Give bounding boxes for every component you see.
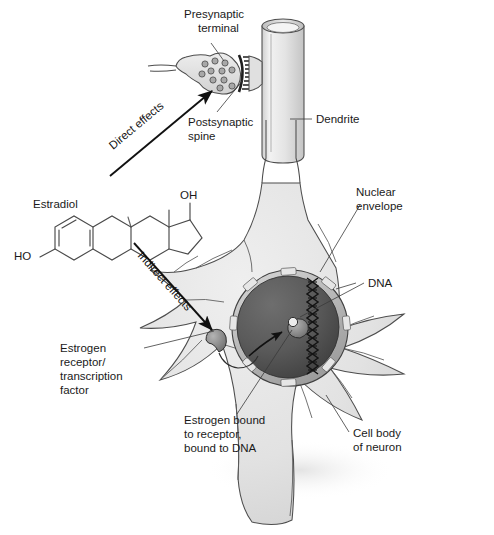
dendrite-label: Dendrite <box>316 113 359 125</box>
leader-nuclear-envelope <box>320 205 360 272</box>
estradiol-ring-c <box>131 216 169 260</box>
estradiol-ho-label-c3: HO <box>14 250 31 262</box>
postsynaptic-spine-label-line2: spine <box>188 130 216 142</box>
direct-effects-label: Direct effects <box>107 99 166 151</box>
postsynaptic-spine <box>249 56 262 91</box>
estradiol-ring-a-double-bonds <box>59 220 90 246</box>
cell-body-label-line2: of neuron <box>353 441 402 453</box>
estradiol-structure: OH HO Estradiol <box>14 189 202 270</box>
synapse-group <box>148 53 262 94</box>
estradiol-neuron-diagram: OH HO Estradiol Direct effects Indirect … <box>0 0 494 535</box>
postsynaptic-spine-label-line1: Postsynaptic <box>188 116 253 128</box>
dendrite-lumen <box>267 23 299 33</box>
estradiol-oh-label-c17: OH <box>180 189 197 201</box>
estradiol-label: Estradiol <box>33 198 78 210</box>
estrogen-bound-label-line1: Estrogen bound <box>184 414 265 426</box>
nuclear-envelope-label-line1: Nuclear <box>356 186 396 198</box>
dendrite-shaft <box>262 26 304 163</box>
presynaptic-terminal-label-line1: Presynaptic <box>184 8 244 20</box>
estradiol-ring-d <box>169 220 202 254</box>
receptor-dna-complex <box>288 317 308 338</box>
estradiol-ring-a <box>55 216 93 260</box>
figure-canvas: OH HO Estradiol Direct effects Indirect … <box>0 0 494 535</box>
presynaptic-axon-lower <box>150 70 176 71</box>
nuclear-envelope-label-line2: envelope <box>356 200 403 212</box>
estrogen-bound-label-line2: to receptor, <box>184 428 242 440</box>
estrogen-bound-label-line3: bound to DNA <box>184 442 257 454</box>
estrogen-receptor-label-line2: receptor/ <box>60 356 106 368</box>
dna-label: DNA <box>368 277 393 289</box>
bound-estrogen-ligand <box>288 317 297 326</box>
estrogen-receptor-label-line4: factor <box>60 384 89 396</box>
cell-body-label-line1: Cell body <box>353 427 401 439</box>
estradiol-c3-oh-bond <box>40 249 55 257</box>
estradiol-ring-b <box>93 216 131 260</box>
presynaptic-terminal-label-line2: terminal <box>198 22 239 34</box>
presynaptic-axon <box>148 65 176 66</box>
estrogen-receptor-label-line3: transcription <box>60 370 123 382</box>
estrogen-receptor-label-line1: Estrogen <box>60 342 106 354</box>
